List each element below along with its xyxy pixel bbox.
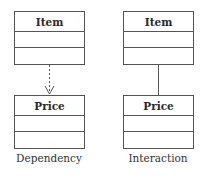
connectors [0, 0, 207, 178]
dependency-arrow-icon [45, 65, 54, 94]
